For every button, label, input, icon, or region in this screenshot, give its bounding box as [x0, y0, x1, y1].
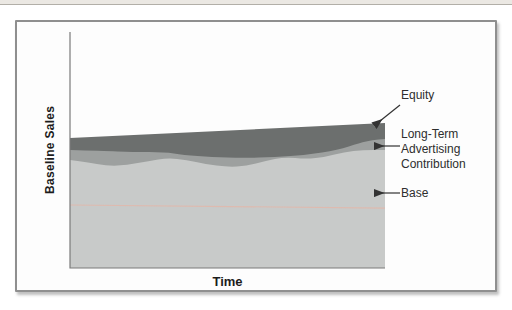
annotation-arrow-0: [375, 105, 400, 125]
annotation-ltac-line1: Long-Term: [401, 127, 493, 142]
annotation-ltac-line3: Contribution: [401, 157, 493, 172]
annotation-base-label: Base: [401, 186, 428, 201]
annotation-long-term-advertising-contribution: Long-Term Advertising Contribution: [401, 127, 493, 172]
annotation-equity-label: Equity: [401, 88, 434, 103]
top-edge-bar: [0, 0, 512, 5]
layer-base: [70, 150, 385, 268]
annotation-equity: Equity: [401, 88, 434, 103]
y-axis-label: Baseline Sales: [41, 32, 59, 268]
x-axis-label: Time: [70, 274, 385, 289]
page: { "figure": { "frame_border_color": "#8f…: [0, 0, 512, 310]
annotation-ltac-line2: Advertising: [401, 142, 493, 157]
figure-frame: Baseline Sales Time Equity Long-Term Adv…: [15, 20, 497, 292]
area-layers: [70, 123, 385, 268]
annotation-base: Base: [401, 186, 428, 201]
